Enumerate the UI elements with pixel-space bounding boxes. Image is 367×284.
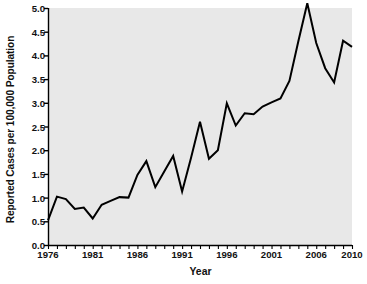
x-axis-tick-label: 1986	[127, 249, 148, 260]
plot-background	[48, 8, 352, 245]
x-axis-tick-label: 2010	[341, 249, 362, 260]
plot-area-svg	[0, 0, 367, 284]
x-axis-tick-label: 2001	[261, 249, 282, 260]
x-axis-tick-label: 2006	[306, 249, 327, 260]
x-axis-tick-label: 1976	[37, 249, 58, 260]
x-axis-tick-label: 1996	[216, 249, 237, 260]
x-axis-tick-labels: 19761981198619911996200120062010	[0, 249, 367, 265]
x-axis-label: Year	[48, 266, 353, 277]
x-axis-tick-label: 1981	[82, 249, 103, 260]
x-axis-tick-label: 1991	[171, 249, 192, 260]
chart-container: Reported Cases per 100,000 Population 0.…	[0, 0, 367, 284]
